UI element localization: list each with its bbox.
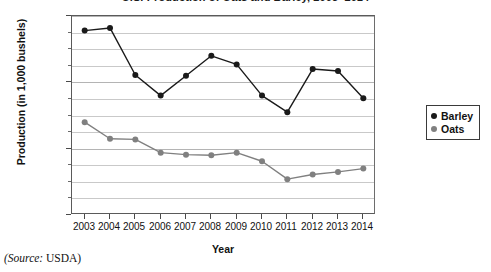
y-tick-mark: [66, 214, 71, 215]
chart-legend: BarleyOats: [426, 105, 480, 140]
data-point-oats-2008: [208, 152, 214, 158]
chart-title: U.S. Production of Oats and Barley, 2003…: [0, 0, 491, 3]
data-point-oats-2011: [284, 176, 290, 182]
data-point-barley-2013: [335, 68, 341, 74]
data-point-oats-2010: [259, 158, 265, 164]
data-point-barley-2012: [310, 66, 316, 72]
legend-label: Barley: [441, 110, 473, 122]
data-point-oats-2009: [234, 150, 240, 156]
data-point-barley-2011: [284, 109, 290, 115]
legend-marker-icon: [431, 126, 437, 132]
data-point-oats-2012: [310, 172, 316, 178]
legend-label: Oats: [441, 123, 464, 135]
legend-item-barley[interactable]: Barley: [431, 109, 473, 122]
data-point-barley-2006: [158, 93, 164, 99]
data-point-barley-2003: [82, 28, 88, 34]
data-point-barley-2005: [132, 72, 138, 78]
source-value: USDA): [46, 252, 81, 264]
data-point-barley-2010: [259, 93, 265, 99]
x-tick-mark: [362, 214, 363, 219]
data-point-oats-2006: [158, 150, 164, 156]
data-point-barley-2009: [234, 61, 240, 67]
data-point-oats-2014: [360, 166, 366, 172]
chart-figure: U.S. Production of Oats and Barley, 2003…: [0, 0, 491, 272]
series-line-barley: [85, 28, 364, 112]
x-tick-mark: [337, 214, 338, 219]
x-tick-mark: [236, 214, 237, 219]
data-point-barley-2004: [107, 25, 113, 31]
x-tick-mark: [185, 214, 186, 219]
x-tick-mark: [312, 214, 313, 219]
x-tick-mark: [84, 214, 85, 219]
x-tick-mark: [261, 214, 262, 219]
series-layer: [72, 16, 375, 214]
x-tick-mark: [134, 214, 135, 219]
source-prefix: (Source:: [4, 252, 43, 264]
data-point-barley-2008: [208, 53, 214, 59]
data-point-oats-2004: [107, 136, 113, 142]
data-point-oats-2007: [183, 152, 189, 158]
legend-marker-icon: [431, 113, 437, 119]
y-axis-title: Production (in 1,000 bushels): [15, 7, 27, 177]
data-point-oats-2013: [335, 169, 341, 175]
data-point-barley-2007: [183, 73, 189, 79]
legend-item-oats[interactable]: Oats: [431, 122, 473, 135]
x-tick-label: 2014: [342, 221, 382, 232]
data-point-barley-2014: [360, 95, 366, 101]
data-point-oats-2005: [132, 136, 138, 142]
series-line-oats: [85, 122, 364, 179]
data-point-oats-2003: [82, 119, 88, 125]
x-tick-mark: [286, 214, 287, 219]
x-tick-mark: [160, 214, 161, 219]
plot-area: [71, 15, 375, 214]
source-note: (Source: USDA): [4, 252, 81, 264]
x-tick-mark: [109, 214, 110, 219]
x-tick-mark: [210, 214, 211, 219]
x-axis-title: Year: [71, 243, 375, 255]
